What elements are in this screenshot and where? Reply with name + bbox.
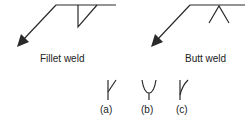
butt-weld-symbol	[157, 5, 245, 40]
bevel-weld-symbol	[108, 80, 116, 100]
butt-weld-label: Butt weld	[185, 53, 226, 64]
u-weld-symbol	[142, 80, 156, 100]
fillet-weld-symbol	[23, 5, 116, 40]
j-weld-symbol	[180, 80, 188, 100]
variant-c-label: (c)	[176, 104, 188, 115]
variant-a-label: (a)	[100, 104, 112, 115]
variant-b-label: (b)	[141, 104, 153, 115]
fillet-weld-label: Fillet weld	[40, 53, 84, 64]
weld-symbols-diagram	[0, 0, 249, 131]
